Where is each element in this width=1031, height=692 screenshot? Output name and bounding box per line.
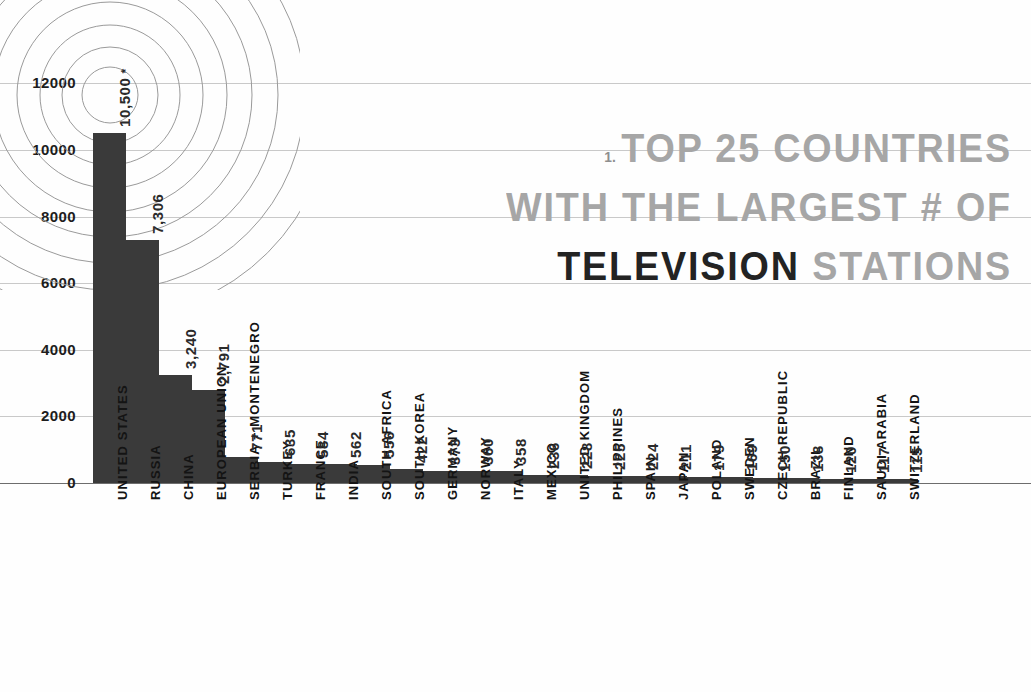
category-label: SERBIA + MONTENEGRO <box>248 321 261 500</box>
category-label: EUROPEAN UNION <box>215 365 228 500</box>
title-line-1: 1.TOP 25 COUNTRIES <box>431 128 1012 169</box>
bar-value-label: 556 <box>381 432 396 459</box>
y-tick-label: 12000 <box>8 75 76 90</box>
bar-value-label: 3,240 <box>183 329 198 370</box>
bar-value-label: 562 <box>348 431 363 458</box>
title-number: 1. <box>604 148 621 165</box>
bar-value-label: 584 <box>315 431 330 458</box>
bar-value-label: 169 <box>744 445 759 472</box>
bar-value-label: 224 <box>645 443 660 470</box>
bar-value-label: 211 <box>678 444 693 470</box>
bar-value-label: 2,791 <box>216 344 231 385</box>
title-highlight-word: TELEVISION <box>557 243 800 289</box>
bar-value-label: 360 <box>480 438 495 465</box>
title-line-2: WITH THE LARGEST # OF <box>431 187 1012 228</box>
title-line-3-rest <box>800 243 812 289</box>
bar-value-label: 422 <box>414 436 429 463</box>
bar-value-label: 120 <box>843 446 858 473</box>
bar-value-label: 115 <box>909 447 924 473</box>
bar-value-label: 228 <box>579 443 594 470</box>
y-tick-label: 8000 <box>8 209 76 224</box>
bar-value-label: 635 <box>282 429 297 456</box>
bar-value-label: 236 <box>546 442 561 469</box>
title-line-3: TELEVISION STATIONS <box>431 246 1012 287</box>
y-tick-label: 10000 <box>8 142 76 157</box>
chart-title: 1.TOP 25 COUNTRIES WITH THE LARGEST # OF… <box>380 128 1012 287</box>
bar-value-label: 138 <box>810 446 825 473</box>
category-label: RUSSIA <box>149 444 162 500</box>
category-label: ITALY <box>512 459 525 500</box>
category-label: UNITED KINGDOM <box>578 370 591 500</box>
y-tick-label: 0 <box>8 475 76 490</box>
bar-value-label: 373 <box>447 438 462 465</box>
category-label: CHINA <box>182 453 195 500</box>
title-line-3-text: STATIONS <box>812 243 1012 289</box>
bar-value-label: 358 <box>513 438 528 465</box>
chart-canvas: 020004000600080001000012000 UNITED STATE… <box>0 0 1031 692</box>
bar-value-label: 771 <box>249 424 264 451</box>
category-label: CZECH REPUBLIC <box>776 370 789 500</box>
category-label: INDIA <box>347 459 360 500</box>
bar-value-label: 150 <box>777 445 792 472</box>
y-tick-label: 2000 <box>8 408 76 423</box>
bar-value-label: 10,500 * <box>117 69 132 128</box>
bar-value-label: 7,306 <box>150 193 165 234</box>
title-line-1-text: TOP 25 COUNTRIES <box>621 125 1012 171</box>
y-tick-label: 4000 <box>8 342 76 357</box>
title-line-2-text: WITH THE LARGEST # OF <box>506 184 1012 230</box>
bar-value-label: 225 <box>612 443 627 470</box>
bar-value-label: 179 <box>711 444 726 471</box>
category-label: UNITED STATES <box>116 384 129 500</box>
bar-value-label: 117 <box>876 447 891 473</box>
y-tick-label: 6000 <box>8 275 76 290</box>
